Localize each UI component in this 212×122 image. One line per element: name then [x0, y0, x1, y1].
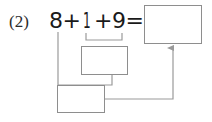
worksheet-problem: (2) 8+1+9=	[0, 0, 212, 122]
line-partial-sum-to-final-answer	[58, 75, 112, 85]
partial-sum-box[interactable]	[81, 46, 128, 75]
final-answer-box[interactable]	[57, 85, 105, 113]
grouping-bracket-icon	[86, 33, 122, 40]
total-sum-box[interactable]	[144, 5, 202, 44]
